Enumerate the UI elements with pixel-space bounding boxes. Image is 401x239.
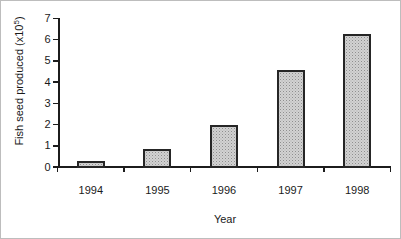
y-axis-tick xyxy=(53,145,58,147)
y-axis-tick xyxy=(53,60,58,62)
y-tick-label: 2 xyxy=(33,119,51,130)
y-axis-title-suffix: ) xyxy=(13,16,25,20)
y-axis-title-superscript: 5 xyxy=(12,20,21,24)
x-tick-label-1995: 1995 xyxy=(135,185,179,196)
y-tick-label: 0 xyxy=(33,162,51,173)
y-axis-title-text: Fish seed produced (x10 xyxy=(13,25,25,146)
y-axis-line xyxy=(58,18,60,168)
y-tick-label: 1 xyxy=(33,140,51,151)
y-axis-tick xyxy=(53,81,58,83)
bar-1996 xyxy=(210,125,238,167)
x-tick-label-1997: 1997 xyxy=(269,185,313,196)
x-axis-title: Year xyxy=(214,213,236,225)
x-axis-tick xyxy=(190,167,192,172)
y-axis-tick xyxy=(53,18,58,20)
x-axis-tick xyxy=(123,167,125,172)
bar-1995 xyxy=(143,149,171,168)
x-axis-tick xyxy=(390,167,392,172)
x-axis-tick xyxy=(323,167,325,172)
y-tick-label: 5 xyxy=(33,55,51,66)
y-tick-label: 7 xyxy=(33,13,51,24)
x-tick-label-1996: 1996 xyxy=(202,185,246,196)
x-axis-tick xyxy=(57,167,59,172)
y-tick-label: 3 xyxy=(33,98,51,109)
x-tick-label-1994: 1994 xyxy=(69,185,113,196)
y-axis-tick xyxy=(53,39,58,41)
x-tick-label-1998: 1998 xyxy=(335,185,379,196)
y-tick-label: 6 xyxy=(33,34,51,45)
figure-frame: Fish seed produced (x105) 01234567199419… xyxy=(0,0,401,239)
y-axis-tick xyxy=(53,103,58,105)
y-axis-tick xyxy=(53,124,58,126)
y-axis-title: Fish seed produced (x105) xyxy=(11,16,26,145)
bar-1997 xyxy=(277,70,305,168)
x-axis-tick xyxy=(257,167,259,172)
bar-1994 xyxy=(77,161,105,167)
y-tick-label: 4 xyxy=(33,77,51,88)
bar-1998 xyxy=(343,34,371,168)
